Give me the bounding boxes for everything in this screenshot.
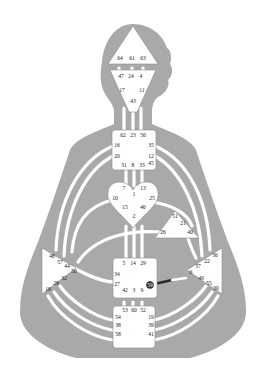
- gate-59: 59: [147, 282, 153, 288]
- gate-55: 55: [206, 280, 212, 286]
- gate-6: 6: [190, 269, 193, 275]
- gate-31: 31: [121, 162, 127, 168]
- gate-18: 18: [45, 286, 51, 292]
- gate-51: 51: [172, 213, 178, 219]
- gate-13: 13: [140, 185, 146, 191]
- gate-39: 39: [148, 322, 154, 328]
- gate-28: 28: [53, 280, 59, 286]
- gate-54: 54: [115, 314, 121, 320]
- sacral-center[interactable]: 5 14 29 34 27 42 3 9 59: [113, 258, 157, 298]
- gate-43: 43: [130, 98, 136, 104]
- gate-21: 21: [180, 220, 186, 226]
- gate-29: 29: [140, 260, 146, 266]
- gate-9: 9: [141, 287, 144, 293]
- gate-58: 58: [115, 331, 121, 337]
- root-center[interactable]: 53 60 52 54 19 38 39 58 41: [113, 306, 155, 348]
- gate-46: 46: [140, 204, 146, 210]
- gate-3: 3: [133, 287, 136, 293]
- gate-44: 44: [64, 263, 70, 269]
- gate-10: 10: [112, 195, 118, 201]
- gate-41: 41: [148, 331, 154, 337]
- gate-26: 26: [160, 229, 166, 235]
- gate-48: 48: [49, 253, 55, 259]
- gate-5: 5: [123, 260, 126, 266]
- gate-27: 27: [114, 281, 120, 287]
- gate-12: 12: [148, 153, 154, 159]
- gate-30: 30: [213, 285, 219, 291]
- gate-14: 14: [130, 260, 136, 266]
- gate-50: 50: [71, 268, 77, 274]
- gate-32: 32: [61, 275, 67, 281]
- gate-7: 7: [123, 185, 126, 191]
- gate-62: 62: [120, 132, 126, 138]
- gate-36: 36: [212, 252, 218, 258]
- gate-8: 8: [132, 162, 135, 168]
- gate-64: 64: [117, 55, 123, 61]
- gate-25: 25: [149, 195, 155, 201]
- gate-20: 20: [114, 153, 120, 159]
- gate-11: 11: [139, 87, 145, 93]
- gate-60: 60: [131, 307, 137, 313]
- gate-53: 53: [122, 307, 128, 313]
- gate-24: 24: [128, 73, 134, 79]
- gate-52: 52: [140, 307, 146, 313]
- gate-42: 42: [122, 287, 128, 293]
- gate-1: 1: [133, 191, 136, 197]
- gate-45: 45: [148, 160, 154, 166]
- gate-34: 34: [114, 271, 120, 277]
- gate-4: 4: [140, 73, 143, 79]
- gate-33: 33: [139, 162, 145, 168]
- bodygraph: 64 61 63 47 24 4 17 11 43 62 23 56 16 35…: [0, 0, 266, 373]
- gate-2: 2: [133, 213, 136, 219]
- gate-38: 38: [115, 322, 121, 328]
- gate-63: 63: [140, 55, 146, 61]
- gate-56: 56: [140, 132, 146, 138]
- gate-35: 35: [148, 142, 154, 148]
- gate-19: 19: [148, 314, 154, 320]
- gate-22: 22: [204, 258, 210, 264]
- gate-40: 40: [187, 229, 193, 235]
- gate-57: 57: [57, 259, 63, 265]
- gate-37: 37: [195, 263, 201, 269]
- gate-47: 47: [118, 73, 124, 79]
- throat-center[interactable]: 62 23 56 16 35 20 12 45 31 8 33: [112, 130, 156, 170]
- gate-17: 17: [119, 87, 125, 93]
- gate-15: 15: [122, 204, 128, 210]
- gate-23: 23: [130, 132, 136, 138]
- gate-16: 16: [114, 142, 120, 148]
- gate-49: 49: [198, 275, 204, 281]
- gate-61: 61: [129, 55, 135, 61]
